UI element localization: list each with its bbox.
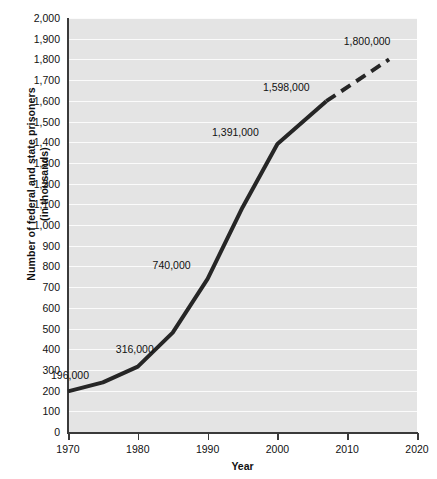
x-axis-tick-label: 1970 bbox=[38, 443, 98, 455]
x-axis-tick-mark bbox=[417, 433, 419, 440]
data-point-label: 740,000 bbox=[153, 259, 191, 271]
x-axis-tick-mark bbox=[138, 433, 140, 440]
x-axis-tick-label: 1980 bbox=[108, 443, 168, 455]
data-point-label: 196,000 bbox=[51, 369, 89, 381]
x-axis-tick-label: 2000 bbox=[247, 443, 307, 455]
x-axis-title: Year bbox=[68, 460, 417, 472]
data-point-label: 1,598,000 bbox=[263, 81, 310, 93]
x-axis-tick-mark bbox=[68, 433, 70, 440]
data-point-label: 1,800,000 bbox=[344, 35, 391, 47]
prison-population-line-chart: Number of federal and state prisoners (i… bbox=[0, 0, 437, 479]
data-point-label: 316,000 bbox=[116, 343, 154, 355]
data-point-label: 1,391,000 bbox=[212, 126, 259, 138]
x-axis-tick-mark bbox=[208, 433, 210, 440]
x-axis-ticks: 197019801990200020102020 bbox=[0, 0, 437, 479]
x-axis-tick-label: 2010 bbox=[317, 443, 377, 455]
x-axis-tick-mark bbox=[277, 433, 279, 440]
x-axis-tick-mark bbox=[347, 433, 349, 440]
x-axis-tick-label: 1990 bbox=[178, 443, 238, 455]
x-axis-tick-label: 2020 bbox=[387, 443, 437, 455]
